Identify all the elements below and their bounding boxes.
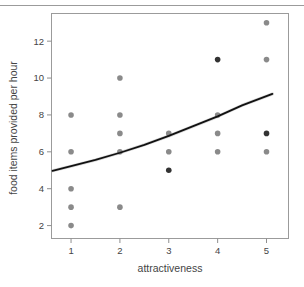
y-tick-label: 2 bbox=[39, 220, 44, 231]
data-point bbox=[166, 149, 172, 155]
data-point bbox=[68, 223, 74, 229]
data-points-light bbox=[68, 20, 269, 228]
y-tick-label: 4 bbox=[39, 183, 44, 194]
x-axis-title: attractiveness bbox=[138, 262, 203, 274]
y-tick-label: 12 bbox=[33, 36, 44, 47]
y-tick-label: 10 bbox=[33, 72, 44, 83]
data-point bbox=[117, 112, 123, 118]
data-point bbox=[117, 75, 123, 81]
data-point bbox=[264, 20, 270, 26]
data-point bbox=[215, 57, 221, 63]
y-axis-title: food items provided per hour bbox=[7, 61, 19, 195]
data-point bbox=[68, 112, 74, 118]
data-point bbox=[166, 167, 172, 173]
panel-border bbox=[52, 14, 289, 239]
y-tick-label: 8 bbox=[39, 109, 44, 120]
data-point bbox=[215, 149, 221, 155]
data-point bbox=[264, 149, 270, 155]
y-tick-label: 6 bbox=[39, 146, 44, 157]
y-axis: 24681012 bbox=[33, 36, 51, 231]
x-tick-label: 2 bbox=[117, 245, 122, 256]
x-tick-label: 4 bbox=[215, 245, 220, 256]
scatter-plot: 24681012 12345 attractiveness food items… bbox=[0, 0, 304, 287]
data-point bbox=[117, 131, 123, 137]
x-tick-label: 1 bbox=[68, 245, 73, 256]
data-point bbox=[117, 204, 123, 210]
data-point bbox=[264, 131, 270, 137]
x-axis: 12345 bbox=[68, 239, 269, 257]
x-tick-label: 3 bbox=[166, 245, 171, 256]
confidence-band-group bbox=[52, 94, 272, 171]
data-point bbox=[68, 149, 74, 155]
data-point bbox=[215, 131, 221, 137]
x-tick-label: 5 bbox=[264, 245, 269, 256]
figure-container: 24681012 12345 attractiveness food items… bbox=[0, 0, 304, 287]
data-point bbox=[68, 186, 74, 192]
data-point bbox=[264, 57, 270, 63]
data-point bbox=[68, 204, 74, 210]
